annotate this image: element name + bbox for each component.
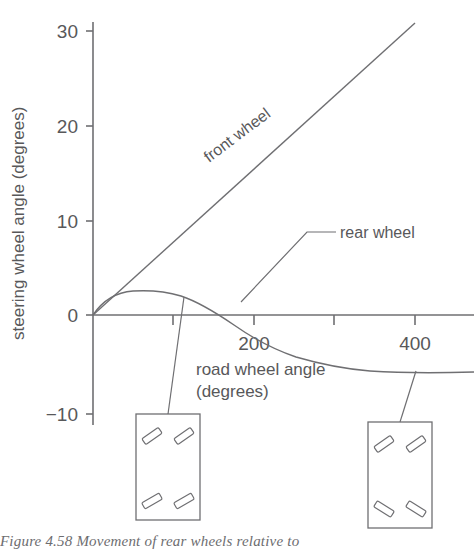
- y-tick-label-30: 30: [57, 21, 78, 42]
- right-rear-wheel-left: [374, 501, 395, 518]
- x-tick-label-400: 400: [399, 333, 431, 354]
- y-tick-label-20: 20: [57, 116, 78, 137]
- x-axis-label-line2: (degrees): [196, 382, 269, 401]
- right-vehicle-body: [368, 422, 432, 528]
- right-rear-wheel-right: [406, 501, 427, 518]
- series-front-wheel: [93, 23, 415, 315]
- right-diagram-leader-line: [400, 371, 416, 422]
- right-front-wheel-right: [406, 435, 426, 452]
- series-label-front-wheel: front wheel: [201, 105, 274, 166]
- rear-wheel-leader-line: [241, 232, 336, 302]
- y-axis-label: steering wheel angle (degrees): [9, 107, 28, 340]
- figure-chart: steering wheel angle (degrees) 30 20 10 …: [0, 0, 476, 553]
- y-tick-label-0: 0: [67, 305, 78, 326]
- y-tick-0: 0: [67, 305, 93, 326]
- x-tick-400: 400: [399, 315, 431, 354]
- left-vehicle-body: [136, 414, 200, 520]
- left-vehicle-diagram: [136, 414, 200, 520]
- y-tick-minus10: −10: [46, 404, 93, 425]
- y-tick-20: 20: [57, 116, 93, 137]
- right-vehicle-diagram: [368, 422, 432, 528]
- figure-caption: Figure 4.58 Movement of rear wheels rela…: [0, 533, 476, 553]
- x-axis-label: road wheel angle: [196, 360, 325, 379]
- left-rear-wheel-left: [142, 493, 163, 509]
- series-label-rear-wheel: rear wheel: [340, 224, 415, 241]
- y-tick-10: 10: [57, 211, 93, 232]
- right-front-wheel-left: [374, 435, 394, 452]
- left-front-wheel-left: [142, 427, 162, 444]
- y-tick-label-10: 10: [57, 211, 78, 232]
- x-tick-200: 200: [238, 315, 270, 354]
- left-front-wheel-right: [174, 427, 194, 444]
- y-tick-label-minus10: −10: [46, 404, 78, 425]
- y-tick-30: 30: [57, 21, 93, 42]
- left-rear-wheel-right: [174, 493, 195, 509]
